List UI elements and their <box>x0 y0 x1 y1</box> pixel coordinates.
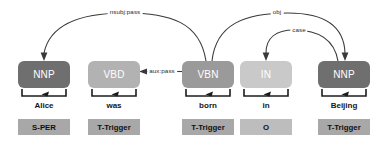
word-token-0: Alice <box>34 101 53 111</box>
bracket-token-1 <box>92 89 136 97</box>
pos-box-token-1: VBD <box>88 61 140 88</box>
tag-box-token-3: O <box>240 119 292 135</box>
dependency-parse-diagram: nsubj:pass obj case aux:pass NNP VBD VBN… <box>0 0 382 148</box>
pos-label: VBD <box>103 69 124 80</box>
dependency-label-nsubj-pass: nsubj:pass <box>108 8 143 16</box>
pos-box-token-0: NNP <box>18 61 70 88</box>
tag-box-token-1: T-Trigger <box>88 119 140 135</box>
bracket-token-3 <box>244 89 288 97</box>
tag-box-token-4: T-Trigger <box>318 119 370 135</box>
dependency-label-obj: obj <box>271 8 284 16</box>
word-token-2: born <box>199 101 217 111</box>
word-token-3: in <box>262 101 269 111</box>
dependency-label-aux-pass: aux:pass <box>147 67 177 75</box>
pos-label: IN <box>261 69 271 80</box>
tag-label: T-Trigger <box>97 123 130 132</box>
tag-box-token-2: T-Trigger <box>182 119 234 135</box>
pos-label: NNP <box>333 69 355 80</box>
tag-label: S-PER <box>32 123 56 132</box>
pos-label: VBN <box>197 69 218 80</box>
bracket-token-2 <box>186 89 230 97</box>
tag-label: T-Trigger <box>191 123 224 132</box>
dependency-arc-obj <box>212 13 348 61</box>
pos-label: NNP <box>33 69 55 80</box>
word-token-1: was <box>106 101 121 111</box>
pos-box-token-4: NNP <box>318 61 370 88</box>
dependency-arc-case <box>263 30 338 61</box>
tag-label: O <box>263 123 269 132</box>
dependency-arc-nsubj-pass <box>41 13 206 61</box>
dependency-label-case: case <box>290 26 307 34</box>
bracket-token-0 <box>22 89 66 97</box>
tag-label: T-Trigger <box>327 123 360 132</box>
tag-box-token-0: S-PER <box>18 119 70 135</box>
pos-box-token-2: VBN <box>182 61 234 88</box>
pos-box-token-3: IN <box>240 61 292 88</box>
word-token-4: Beijing <box>331 101 358 111</box>
bracket-token-4 <box>322 89 366 97</box>
